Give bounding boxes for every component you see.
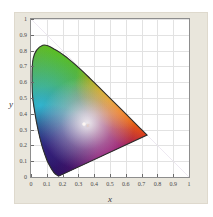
x-tick-label: 0 <box>30 181 33 187</box>
tick-mark-x <box>110 174 111 177</box>
y-tick-label: 0.4 <box>12 111 27 117</box>
y-axis-title: y <box>9 100 13 109</box>
tick-mark-y <box>31 35 34 36</box>
tick-mark-x <box>126 174 127 177</box>
y-tick-label: 0.8 <box>12 48 27 54</box>
tick-mark-x <box>189 174 190 177</box>
tick-mark-y <box>31 98 34 99</box>
tick-mark-x <box>173 174 174 177</box>
y-tick-label: 1 <box>12 16 27 22</box>
tick-mark-y <box>31 161 34 162</box>
tick-mark-x <box>142 174 143 177</box>
tick-mark-x <box>63 174 64 177</box>
gridline-vertical <box>189 19 190 177</box>
color-gamut <box>31 19 189 177</box>
tick-mark-y <box>31 19 34 20</box>
x-tick-label: 0.9 <box>169 181 177 187</box>
x-tick-label: 0.4 <box>90 181 98 187</box>
x-tick-label: 0.6 <box>122 181 130 187</box>
y-tick-label: 0.5 <box>12 95 27 101</box>
tick-mark-y <box>31 177 34 178</box>
y-tick-label: 0.2 <box>12 142 27 148</box>
y-tick-label: 0.1 <box>12 158 27 164</box>
tick-mark-y <box>31 51 34 52</box>
tick-mark-y <box>31 82 34 83</box>
x-tick-label: 0.5 <box>106 181 114 187</box>
x-tick-label: 0.8 <box>154 181 162 187</box>
tick-mark-x <box>47 174 48 177</box>
x-tick-label: 0.7 <box>138 181 146 187</box>
y-tick-label: 0.3 <box>12 127 27 133</box>
x-tick-label: 0.3 <box>75 181 83 187</box>
tick-mark-y <box>31 66 34 67</box>
chromaticity-figure: E 00.10.20.30.40.50.60.70.80.91 00.10.20… <box>0 0 213 217</box>
x-tick-label: 1 <box>188 181 191 187</box>
plot-area: E <box>30 18 190 178</box>
y-tick-label: 0.9 <box>12 32 27 38</box>
y-tick-label: 0 <box>12 174 27 180</box>
y-tick-label: 0.7 <box>12 63 27 69</box>
gamut-svg <box>31 19 189 177</box>
tick-mark-y <box>31 114 34 115</box>
y-tick-label: 0.6 <box>12 79 27 85</box>
x-tick-label: 0.1 <box>43 181 51 187</box>
tick-mark-x <box>78 174 79 177</box>
tick-mark-y <box>31 145 34 146</box>
tick-mark-x <box>94 174 95 177</box>
x-axis-title: x <box>108 195 112 204</box>
x-tick-label: 0.2 <box>59 181 67 187</box>
tick-mark-x <box>157 174 158 177</box>
tick-mark-y <box>31 130 34 131</box>
white-point-marker <box>82 123 85 126</box>
white-point-label: E <box>86 123 89 128</box>
